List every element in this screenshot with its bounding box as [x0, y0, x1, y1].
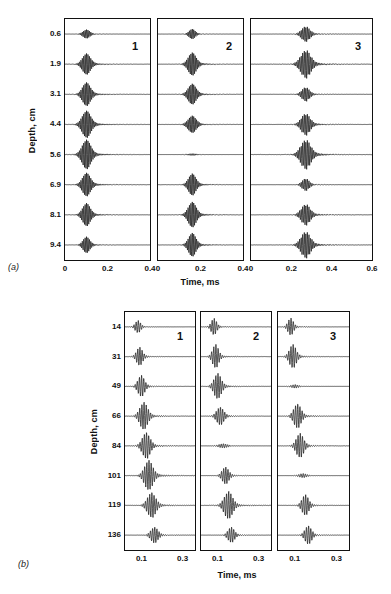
- depth-tick-label: 9.4: [31, 240, 61, 249]
- depth-tick-label: 6.9: [31, 180, 61, 189]
- x-tick-label: 0.2: [279, 264, 303, 273]
- depth-tick-label: 4.4: [31, 119, 61, 128]
- depth-tick-label: 101: [91, 471, 121, 480]
- depth-tick-label: 49: [91, 381, 121, 390]
- waveform-plot-b-1[interactable]: [124, 311, 196, 551]
- figure-b: (b) Depth, cm 1431496684101119136 1 2 3 …: [0, 297, 391, 594]
- depth-tick-label: 5.6: [31, 150, 61, 159]
- depth-tick-label: 66: [91, 411, 121, 420]
- x-axis-label-b: Time, ms: [187, 570, 287, 580]
- x-tick-label: 0.2: [189, 264, 213, 273]
- plot-number-b-1: 1: [177, 330, 183, 342]
- x-tick-label: 0: [146, 264, 170, 273]
- figure-a: (a) Depth, cm 0.61.93.14.45.66.98.19.4 1…: [0, 0, 391, 297]
- x-tick-label: 0.4: [320, 264, 344, 273]
- plot-number-a-3: 3: [355, 40, 361, 52]
- panel-tag-b: (b): [18, 559, 29, 569]
- x-tick-label: 0.1: [129, 554, 153, 563]
- waveform-plot-b-3[interactable]: [277, 311, 350, 551]
- x-tick-label: 0: [53, 264, 77, 273]
- panel-tag-a: (a): [8, 262, 19, 272]
- y-axis-label-a: Depth, cm: [27, 108, 37, 153]
- x-tick-label: 0.2: [96, 264, 120, 273]
- plot-number-b-2: 2: [253, 330, 259, 342]
- x-tick-label: 0.3: [324, 554, 348, 563]
- depth-tick-label: 14: [91, 322, 121, 331]
- depth-tick-label: 0.6: [31, 29, 61, 38]
- waveform-plot-a-2[interactable]: [157, 18, 244, 261]
- plot-number-b-3: 3: [330, 330, 336, 342]
- x-tick-label: 0.3: [171, 554, 195, 563]
- x-tick-label: 0.6: [360, 264, 384, 273]
- depth-tick-label: 1.9: [31, 59, 61, 68]
- x-axis-label-a: Time, ms: [150, 277, 250, 287]
- depth-tick-label: 3.1: [31, 89, 61, 98]
- x-tick-label: 0.3: [247, 554, 271, 563]
- depth-tick-label: 119: [91, 500, 121, 509]
- depth-tick-label: 84: [91, 441, 121, 450]
- depth-tick-label: 31: [91, 352, 121, 361]
- x-tick-label: 0: [239, 264, 263, 273]
- x-tick-label: 0.1: [205, 554, 229, 563]
- waveform-plot-a-1[interactable]: [64, 18, 151, 261]
- waveform-plot-b-2[interactable]: [200, 311, 272, 551]
- plot-number-a-1: 1: [132, 40, 138, 52]
- depth-tick-label: 136: [91, 530, 121, 539]
- waveform-plot-a-3[interactable]: [250, 18, 373, 261]
- plot-number-a-2: 2: [226, 40, 232, 52]
- x-tick-label: 0.1: [283, 554, 307, 563]
- depth-tick-label: 8.1: [31, 210, 61, 219]
